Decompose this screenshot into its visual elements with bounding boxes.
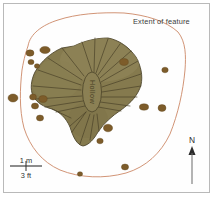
extent-of-feature-label: Extent of feature: [133, 17, 190, 26]
stone: [97, 138, 103, 144]
scale-bar: 1 m 3 ft: [10, 156, 42, 180]
scale-metric-label: 1 m: [20, 156, 32, 165]
north-arrow-label: N: [189, 135, 195, 145]
stone: [39, 96, 47, 103]
stone: [120, 59, 129, 66]
scale-imperial-label: 3 ft: [21, 171, 31, 180]
stone: [8, 94, 18, 102]
stone: [139, 104, 148, 110]
stone: [31, 103, 38, 109]
north-arrow: N: [189, 135, 196, 184]
stone: [162, 67, 168, 73]
stone: [77, 172, 82, 177]
site-plan-map: Extent of feature Hollow 1 m 3 ft N: [0, 0, 217, 203]
stone: [34, 64, 39, 69]
excavated-feature: [29, 38, 142, 146]
stone: [40, 46, 50, 53]
hollow-label: Hollow: [88, 80, 97, 104]
stone: [28, 59, 34, 64]
site-plan-figure: Extent of feature Hollow 1 m 3 ft N: [0, 0, 217, 203]
stone: [158, 105, 166, 112]
stone: [121, 164, 128, 170]
stone: [103, 124, 112, 132]
stone: [30, 94, 37, 100]
stone: [36, 115, 43, 121]
stone: [26, 50, 34, 56]
